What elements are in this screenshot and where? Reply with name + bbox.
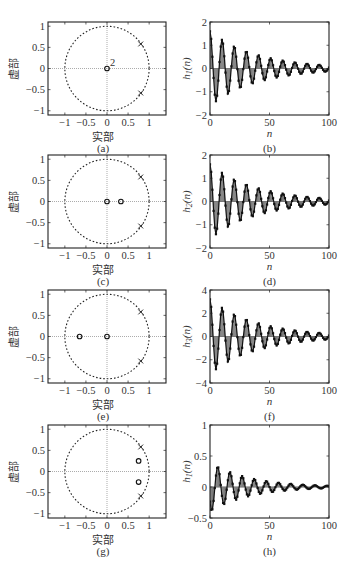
x-tick-label: 0 <box>207 250 212 261</box>
subplot-caption: (d) <box>263 275 276 288</box>
plot-frame <box>210 425 329 518</box>
zero-marker <box>77 334 82 339</box>
y-tick-label: 2 <box>202 150 207 161</box>
y-axis-label: 虚部 <box>7 461 21 483</box>
subplot-d: 050100210−1−2nh2(n)(d) <box>180 150 337 289</box>
y-tick-label: −4 <box>196 378 208 389</box>
y-axis-label: h3(n) <box>180 325 194 348</box>
x-tick-label: −1 <box>59 520 70 531</box>
x-tick-label: −0.5 <box>76 250 95 261</box>
pole-marker <box>138 494 143 499</box>
zero-marker <box>136 480 141 485</box>
x-tick-label: 0.5 <box>122 117 135 128</box>
y-axis-label: h2(n) <box>180 190 194 213</box>
y-tick-label: 1 <box>40 289 45 300</box>
x-tick-label: 1 <box>147 250 152 261</box>
y-axis-label: h1(n) <box>180 57 194 80</box>
x-tick-label: 0 <box>104 520 109 531</box>
y-axis-label: 虚部 <box>7 58 21 80</box>
pole-marker <box>138 91 143 96</box>
pole-marker <box>138 42 143 47</box>
y-tick-label: −1 <box>34 508 45 519</box>
x-tick-label: −0.5 <box>76 520 95 531</box>
x-tick-label: 0 <box>104 250 109 261</box>
y-tick-label: 1 <box>40 154 45 165</box>
y-tick-label: −2 <box>196 110 207 121</box>
x-tick-label: −0.5 <box>76 117 95 128</box>
y-tick-label: 0.5 <box>32 445 45 456</box>
x-tick-label: 0.5 <box>122 385 135 396</box>
y-tick-label: 0 <box>40 63 45 74</box>
subplot-caption: (a) <box>97 142 110 155</box>
x-axis-label: n <box>267 530 273 542</box>
x-tick-label: 0 <box>104 117 109 128</box>
y-tick-label: 0 <box>40 331 45 342</box>
y-tick-label: 1 <box>40 424 45 435</box>
subplot-caption: (h) <box>263 545 276 558</box>
y-tick-label: −2 <box>196 354 207 365</box>
y-tick-label: 0 <box>202 331 207 342</box>
pole-zero-and-impulse-response-figure: 2−1−0.500.5110.50−0.5−1实部虚部(a)050100210−… <box>0 0 357 570</box>
x-tick-label: 1 <box>147 520 152 531</box>
y-tick-label: 0.5 <box>32 175 45 186</box>
x-tick-label: −1 <box>59 117 70 128</box>
y-tick-label: −1 <box>34 105 45 116</box>
subplot-a: 2−1−0.500.5110.50−0.5−1实部虚部(a) <box>7 21 166 155</box>
y-axis-label: 虚部 <box>7 191 21 213</box>
x-tick-label: 0 <box>207 520 212 531</box>
y-tick-label: −1 <box>196 219 207 230</box>
x-tick-label: 0 <box>207 117 212 128</box>
x-axis-label: n <box>267 260 273 272</box>
y-tick-label: 4 <box>202 285 208 296</box>
y-tick-label: 0 <box>202 196 207 207</box>
x-tick-label: 0 <box>207 385 212 396</box>
y-tick-label: −1 <box>34 373 45 384</box>
y-tick-label: −1 <box>196 86 207 97</box>
subplot-caption: (g) <box>97 545 110 558</box>
pole-marker <box>138 310 143 315</box>
subplot-g: −1−0.500.5110.50−0.5−1实部虚部(g) <box>7 424 166 558</box>
x-axis-label: n <box>267 395 273 407</box>
x-tick-label: 0 <box>104 385 109 396</box>
subplot-b: 050100210−1−2nh1(n)(b) <box>180 17 337 156</box>
subplot-caption: (c) <box>97 275 110 288</box>
x-tick-label: 1 <box>147 385 152 396</box>
pole-marker <box>138 175 143 180</box>
subplot-caption: (e) <box>97 410 110 423</box>
y-tick-label: 1 <box>40 21 45 32</box>
x-tick-label: −1 <box>59 385 70 396</box>
y-tick-label: 1 <box>202 40 207 51</box>
pole-marker <box>138 224 143 229</box>
x-tick-label: 0.5 <box>122 520 135 531</box>
y-tick-label: 1 <box>202 420 207 431</box>
zero-marker <box>136 459 141 464</box>
y-tick-label: −1 <box>34 238 45 249</box>
subplot-e: −1−0.500.5110.50−0.5−1实部虚部(e) <box>7 289 166 423</box>
y-tick-label: −0.5 <box>26 84 45 95</box>
subplot-caption: (f) <box>264 410 275 423</box>
y-tick-label: −0.5 <box>26 217 45 228</box>
y-tick-label: −0.5 <box>26 487 45 498</box>
subplot-c: −1−0.500.5110.50−0.5−1实部虚部(c) <box>7 154 166 288</box>
y-tick-label: 2 <box>202 17 207 28</box>
y-tick-label: 0.5 <box>32 310 45 321</box>
y-tick-label: 0 <box>40 466 45 477</box>
y-tick-label: −2 <box>196 243 207 254</box>
x-tick-label: 100 <box>321 117 337 128</box>
y-tick-label: −0.5 <box>188 513 207 524</box>
x-tick-label: 100 <box>321 385 337 396</box>
x-tick-label: −1 <box>59 250 70 261</box>
y-axis-label: 虚部 <box>7 326 21 348</box>
pole-marker <box>138 359 143 364</box>
y-tick-label: 0 <box>40 196 45 207</box>
y-tick-label: 0.5 <box>194 451 207 462</box>
y-axis-label: h1(n) <box>180 460 194 483</box>
y-tick-label: 0.5 <box>32 42 45 53</box>
y-tick-label: 1 <box>202 173 207 184</box>
x-tick-label: 0.5 <box>122 250 135 261</box>
y-tick-label: 0 <box>202 63 207 74</box>
y-tick-label: −0.5 <box>26 352 45 363</box>
x-tick-label: 1 <box>147 117 152 128</box>
pole-marker <box>138 445 143 450</box>
subplot-f: 050100420−2−4nh3(n)(f) <box>180 285 337 424</box>
